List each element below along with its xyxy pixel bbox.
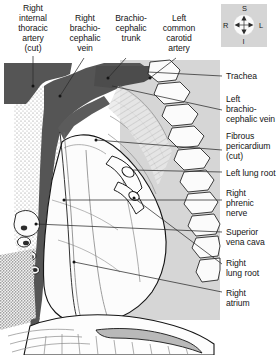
label-left-brachiocephalic-vein: Left brachio- cephalic vein bbox=[226, 94, 278, 124]
label-right-phrenic-nerve: Right phrenic nerve bbox=[226, 188, 278, 218]
orientation-inferior-label: I bbox=[243, 38, 245, 45]
orientation-left-label: L bbox=[259, 22, 263, 29]
anatomy-figure-page: S I R L Right internal thoracic artery (… bbox=[0, 0, 278, 355]
label-right-internal-thoracic-artery: Right internal thoracic artery (cut) bbox=[4, 3, 62, 53]
orientation-rose: S I R L bbox=[221, 4, 267, 47]
label-fibrous-pericardium-cut: Fibrous pericardium (cut) bbox=[226, 131, 278, 161]
orientation-superior-label: S bbox=[242, 5, 247, 12]
label-left-lung-root: Left lung root bbox=[226, 168, 278, 178]
label-superior-vena-cava: Superior vena cava bbox=[226, 227, 278, 247]
label-right-atrium: Right atrium bbox=[226, 288, 278, 308]
label-right-brachiocephalic-vein: Right brachio- cephalic vein bbox=[62, 13, 108, 53]
left-margin-shade bbox=[0, 250, 36, 330]
orientation-right-label: R bbox=[223, 22, 228, 29]
label-left-common-carotid-artery: Left common carotid artery bbox=[154, 13, 204, 53]
label-right-lung-root: Right lung root bbox=[226, 258, 278, 278]
label-brachiocephalic-trunk: Brachio- cephalic trunk bbox=[108, 13, 154, 43]
label-trachea: Trachea bbox=[226, 71, 278, 81]
